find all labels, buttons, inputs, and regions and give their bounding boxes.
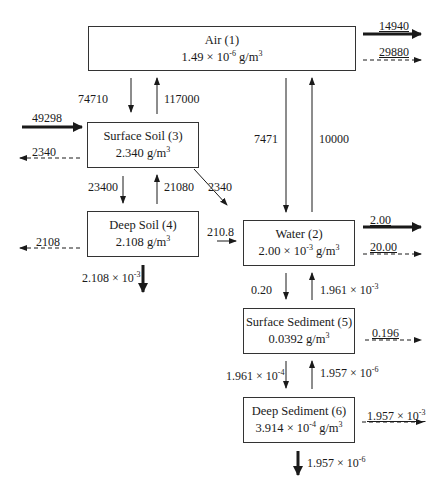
flow-label-deepsoil-burial: 2.108 × 10-3 bbox=[82, 272, 140, 285]
exponent: -3 bbox=[134, 270, 141, 279]
compartment-surface-sediment: Surface Sediment (5) 0.0392 g/m3 bbox=[243, 308, 355, 354]
exponent: 3 bbox=[166, 234, 170, 243]
compartment-concentration: 1.49 × 10-6 g/m3 bbox=[182, 49, 263, 66]
flow-label-soil-reaction: 2340 bbox=[32, 146, 56, 159]
flow-label-air-to-water: 7471 bbox=[254, 133, 278, 146]
flow-label-air-advection: 14940 bbox=[379, 20, 409, 33]
flow-label-deepsoil-to-soil: 21080 bbox=[164, 181, 194, 194]
compartment-water: Water (2) 2.00 × 10-3 g/m3 bbox=[243, 220, 355, 266]
flow-label-water-advection: 2.00 bbox=[370, 214, 391, 227]
flow-label-soil-to-water: 2340 bbox=[208, 181, 232, 194]
compartment-air: Air (1) 1.49 × 10-6 g/m3 bbox=[88, 26, 356, 71]
exponent: 3 bbox=[335, 243, 339, 252]
compartment-name: Deep Sediment (6) bbox=[252, 403, 346, 420]
value-text: 1.961 × 10 bbox=[320, 283, 372, 297]
value-text: g/m bbox=[313, 244, 336, 258]
compartment-name: Surface Soil (3) bbox=[103, 128, 182, 145]
value-text: 1.957 × 10 bbox=[367, 409, 419, 423]
exponent: -4 bbox=[309, 420, 316, 429]
exponent: -3 bbox=[306, 243, 313, 252]
flow-label-air-reaction: 29880 bbox=[379, 46, 409, 59]
compartment-deep-sediment: Deep Sediment (6) 3.914 × 10-4 g/m3 bbox=[243, 397, 355, 443]
flow-label-soil-input: 49298 bbox=[32, 112, 62, 125]
value-text: 1.49 × 10 bbox=[182, 50, 230, 64]
flow-label-water-to-air: 10000 bbox=[319, 133, 349, 146]
value-text: 1.957 × 10 bbox=[307, 456, 359, 470]
value-text: 1.957 × 10 bbox=[320, 366, 372, 380]
value-text: 2.108 × 10 bbox=[82, 271, 134, 285]
flow-label-deepsoil-reaction: 2108 bbox=[36, 236, 60, 249]
flow-label-water-reaction: 20.00 bbox=[370, 241, 397, 254]
flow-label-air-to-soil: 74710 bbox=[78, 93, 108, 106]
compartment-concentration: 2.340 g/m3 bbox=[116, 145, 171, 162]
compartment-concentration: 2.108 g/m3 bbox=[116, 234, 171, 251]
compartment-concentration: 3.914 × 10-4 g/m3 bbox=[255, 420, 342, 437]
flow-label-sed-reaction: 0.196 bbox=[372, 327, 399, 340]
value-text: 0.0392 bbox=[269, 332, 303, 346]
flow-label-deepsed-reaction: 1.957 × 10-3 bbox=[367, 410, 425, 423]
exponent: -6 bbox=[359, 455, 366, 464]
value-text: 2.00 × 10 bbox=[259, 244, 307, 258]
value-text: 2.340 bbox=[116, 146, 144, 160]
exponent: -6 bbox=[229, 49, 236, 58]
exponent: -6 bbox=[372, 365, 379, 374]
compartment-concentration: 2.00 × 10-3 g/m3 bbox=[259, 243, 340, 260]
exponent: 3 bbox=[258, 49, 262, 58]
flow-label-deepsed-burial: 1.957 × 10-6 bbox=[307, 457, 365, 470]
compartment-name: Surface Sediment (5) bbox=[246, 314, 352, 331]
flow-label-soil-to-deepsoil: 23400 bbox=[88, 181, 118, 194]
exponent: 3 bbox=[325, 331, 329, 340]
compartment-surface-soil: Surface Soil (3) 2.340 g/m3 bbox=[87, 122, 199, 168]
compartment-concentration: 0.0392 g/m3 bbox=[269, 331, 330, 348]
value-text: g/m bbox=[303, 332, 326, 346]
flow-label-sed-to-deepsed: 1.961 × 10-4 bbox=[226, 370, 284, 383]
value-text: g/m bbox=[144, 235, 167, 249]
flow-label-water-to-sed: 0.20 bbox=[251, 284, 272, 297]
exponent: -4 bbox=[278, 368, 285, 377]
flow-label-sed-to-water: 1.961 × 10-3 bbox=[320, 284, 378, 297]
exponent: -3 bbox=[372, 282, 379, 291]
value-text: g/m bbox=[316, 421, 339, 435]
exponent: 3 bbox=[166, 145, 170, 154]
compartment-name: Water (2) bbox=[275, 226, 322, 243]
exponent: 3 bbox=[339, 420, 343, 429]
value-text: 2.108 bbox=[116, 235, 144, 249]
value-text: g/m bbox=[144, 146, 167, 160]
value-text: 1.961 × 10 bbox=[226, 369, 278, 383]
compartment-deep-soil: Deep Soil (4) 2.108 g/m3 bbox=[87, 211, 199, 257]
value-text: g/m bbox=[236, 50, 259, 64]
flow-label-soil-to-air: 117000 bbox=[164, 93, 200, 106]
value-text: 3.914 × 10 bbox=[255, 421, 309, 435]
flow-label-deepsoil-to-water: 210.8 bbox=[207, 226, 234, 239]
compartment-name: Air (1) bbox=[205, 32, 239, 49]
compartment-name: Deep Soil (4) bbox=[109, 217, 176, 234]
flow-label-deepsed-to-sed: 1.957 × 10-6 bbox=[320, 367, 378, 380]
exponent: -3 bbox=[419, 408, 426, 417]
